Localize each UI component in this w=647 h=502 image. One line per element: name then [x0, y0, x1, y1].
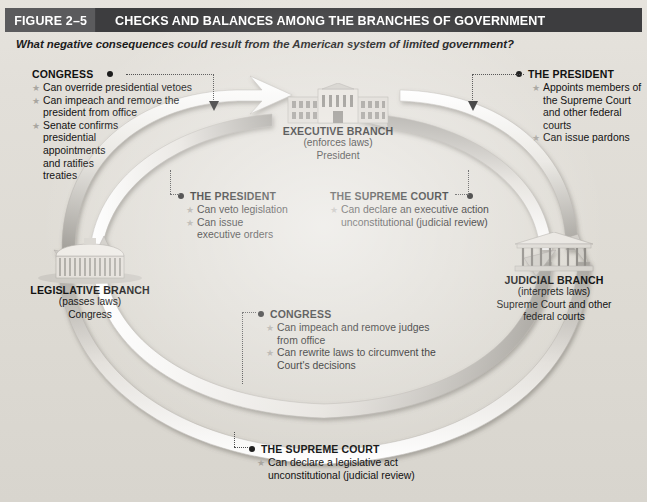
callout-congress-over-judicial: CONGRESS ★Can impeach and remove judges … [258, 308, 443, 372]
star-bullet-icon: ★ [32, 95, 40, 108]
list-item-text: Can veto legislation [197, 204, 288, 215]
callout-items: ★Can declare a legislative act unconstit… [257, 457, 449, 482]
callout-heading: CONGRESS [270, 308, 331, 320]
callout-heading-row: CONGRESS [258, 308, 443, 320]
list-item: ★Can declare a legislative act unconstit… [257, 457, 453, 482]
leader-arrow-congress-top [208, 100, 220, 112]
callout-heading: CONGRESS [32, 68, 93, 80]
list-item-text: Can issue executive orders [197, 217, 273, 241]
callout-heading: THE SUPREME COURT [261, 443, 380, 455]
legislative-branch-holder: Congress [14, 309, 166, 322]
list-item-text: Can impeach and remove the president fro… [43, 95, 179, 119]
node-judicial-branch: JUDICIAL BRANCH (interprets laws) Suprem… [470, 232, 638, 324]
leader-arrow-president-top [467, 100, 479, 112]
star-bullet-icon: ★ [266, 347, 274, 360]
list-item-text: Senate confirms presidential appointment… [43, 120, 118, 181]
leader-line-congress-top [126, 74, 214, 75]
callout-items: ★Can override presidential vetoes ★Can i… [32, 82, 207, 183]
list-item: ★Can issue executive orders [186, 217, 289, 242]
list-item-text: Can declare a legislative act unconstitu… [268, 457, 415, 481]
leader-line-president-mid-drop [170, 170, 171, 194]
judicial-branch-name: JUDICIAL BRANCH [470, 274, 638, 286]
star-bullet-icon: ★ [32, 120, 40, 133]
callout-heading-row: THE PRESIDENT [516, 68, 646, 80]
list-item: ★Appoints members of the Supreme Court a… [532, 82, 646, 132]
callout-congress-over-president: CONGRESS ★Can override presidential veto… [32, 68, 207, 183]
list-item: ★Can veto legislation [186, 204, 313, 217]
star-bullet-icon: ★ [330, 204, 338, 217]
callout-heading-row: THE SUPREME COURT [249, 443, 449, 455]
callout-president-over-congress: THE PRESIDENT ★Can veto legislation ★Can… [178, 190, 313, 242]
star-bullet-icon: ★ [532, 82, 540, 95]
list-item: ★Can issue pardons [532, 132, 646, 145]
list-item-text: Can issue pardons [543, 132, 630, 143]
leader-line-supreme-bot [234, 447, 250, 448]
leader-line-president-mid [170, 194, 180, 195]
callout-items: ★Can impeach and remove judges from offi… [266, 322, 443, 372]
figure-container: FIGURE 2–5 CHECKS AND BALANCES AMONG THE… [0, 0, 647, 502]
executive-branch-role: (enforces laws) [258, 137, 418, 150]
callout-items: ★Can veto legislation ★Can issue executi… [186, 204, 313, 242]
executive-branch-name: EXECUTIVE BRANCH [258, 125, 418, 137]
callout-supreme-over-congress: THE SUPREME COURT ★Can declare a legisla… [249, 443, 449, 482]
leader-line-congress-bot [242, 312, 256, 313]
node-executive-branch: EXECUTIVE BRANCH (enforces laws) Preside… [258, 83, 418, 162]
list-item-text: Can rewrite laws to circumvent the Court… [277, 347, 436, 371]
list-item: ★Can impeach and remove judges from offi… [266, 322, 443, 347]
legislative-branch-name: LEGISLATIVE BRANCH [14, 284, 166, 296]
list-item: ★Can declare an executive action unconst… [330, 204, 516, 229]
callout-heading-row: THE PRESIDENT [178, 190, 313, 202]
star-bullet-icon: ★ [532, 132, 540, 145]
capitol-dome-icon [34, 238, 146, 284]
callout-heading-row: THE SUPREME COURT [330, 190, 510, 202]
leader-line-supreme-mid-drop [468, 170, 469, 194]
legislative-branch-role: (passes laws) [14, 296, 166, 309]
judicial-branch-holder-line1: Supreme Court and other [470, 299, 638, 312]
callout-items: ★Appoints members of the Supreme Court a… [532, 82, 646, 145]
list-item: ★Can override presidential vetoes [32, 82, 207, 95]
white-house-icon [286, 83, 390, 125]
leader-line-supreme-mid [455, 194, 469, 195]
list-item: ★Senate confirms presidential appointmen… [32, 120, 125, 183]
callout-heading: THE PRESIDENT [190, 190, 276, 202]
leader-line-president-top [472, 74, 524, 75]
callout-items: ★Can declare an executive action unconst… [330, 204, 510, 229]
list-item-text: Can impeach and remove judges from offic… [277, 322, 430, 346]
star-bullet-icon: ★ [186, 204, 194, 217]
callout-president-over-judicial: THE PRESIDENT ★Appoints members of the S… [524, 68, 646, 145]
list-item-text: Can override presidential vetoes [43, 82, 192, 93]
executive-branch-holder: President [258, 150, 418, 163]
callout-supreme-over-president: THE SUPREME COURT ★Can declare an execut… [330, 190, 510, 229]
star-bullet-icon: ★ [32, 82, 40, 95]
leader-line-congress-bot-drop [242, 312, 243, 384]
star-bullet-icon: ★ [186, 217, 194, 230]
leader-line-supreme-bot-rise [234, 432, 235, 447]
supreme-court-icon [513, 232, 595, 274]
judicial-branch-role: (interprets laws) [470, 286, 638, 299]
leader-dot-icon [258, 311, 264, 317]
node-legislative-branch: LEGISLATIVE BRANCH (passes laws) Congres… [14, 238, 166, 321]
list-item-text: Can declare an executive action unconsti… [341, 204, 489, 228]
callout-heading: THE SUPREME COURT [330, 190, 449, 202]
list-item-text: Appoints members of the Supreme Court an… [543, 82, 641, 131]
star-bullet-icon: ★ [266, 322, 274, 335]
list-item: ★Can rewrite laws to circumvent the Cour… [266, 347, 443, 372]
callout-heading: THE PRESIDENT [528, 68, 614, 80]
list-item: ★Can impeach and remove the president fr… [32, 95, 207, 120]
star-bullet-icon: ★ [257, 457, 265, 470]
leader-dot-icon [107, 71, 113, 77]
judicial-branch-holder-line2: federal courts [470, 311, 638, 324]
